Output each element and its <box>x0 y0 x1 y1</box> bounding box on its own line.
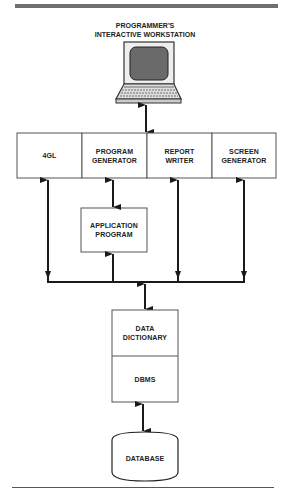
tool-program-generator-line1: PROGRAM <box>96 147 133 156</box>
tool-4gl: 4GL <box>17 133 82 178</box>
tool-report-writer-line1: REPORT <box>165 147 195 156</box>
dbms-label: DBMS <box>134 375 155 384</box>
tool-4gl-label: 4GL <box>43 151 57 160</box>
database-label: DATABASE <box>126 454 165 463</box>
dbms: DBMS <box>112 356 178 402</box>
bottom-rule <box>12 487 274 488</box>
tool-screen-generator-line1: SCREEN <box>229 147 259 156</box>
laptop-computer-icon <box>116 42 181 103</box>
data-dictionary: DATA DICTIONARY <box>112 310 178 356</box>
tool-report-writer: REPORT WRITER <box>147 133 212 178</box>
tool-report-writer-line2: WRITER <box>165 156 193 165</box>
tool-screen-generator-line2: GENERATOR <box>222 156 267 165</box>
data-dictionary-line1: DATA <box>136 324 155 333</box>
tool-program-generator: PROGRAM GENERATOR <box>82 133 147 178</box>
application-program-line1: APPLICATION <box>90 221 138 230</box>
tool-screen-generator: SCREEN GENERATOR <box>212 133 276 178</box>
data-dictionary-line2: DICTIONARY <box>123 333 167 342</box>
application-program-line2: PROGRAM <box>95 230 132 239</box>
database: DATABASE <box>112 438 178 478</box>
tool-program-generator-line2: GENERATOR <box>92 156 137 165</box>
application-program: APPLICATION PROGRAM <box>81 208 147 252</box>
